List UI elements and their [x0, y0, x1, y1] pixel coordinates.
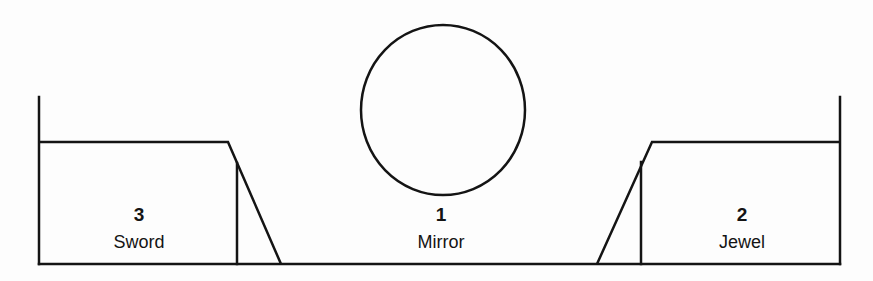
item-name: Sword — [113, 233, 164, 251]
item-number: 2 — [719, 205, 765, 224]
diagram-canvas: 3 Sword 1 Mirror 2 Jewel — [0, 0, 873, 281]
item-label-mirror: 1 Mirror — [418, 205, 465, 251]
item-name: Jewel — [719, 233, 765, 251]
item-number: 1 — [418, 205, 465, 224]
item-label-jewel: 2 Jewel — [719, 205, 765, 251]
item-number: 3 — [113, 205, 164, 224]
mirror-circle — [361, 25, 525, 195]
item-label-sword: 3 Sword — [113, 205, 164, 251]
item-name: Mirror — [418, 233, 465, 251]
